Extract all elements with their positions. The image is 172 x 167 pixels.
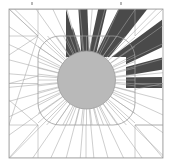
tick-mark <box>31 2 33 5</box>
geometric-figure-svg <box>0 0 172 167</box>
center-gray-circle <box>58 51 116 109</box>
tick-mark <box>120 2 122 5</box>
figure-root <box>0 0 172 167</box>
